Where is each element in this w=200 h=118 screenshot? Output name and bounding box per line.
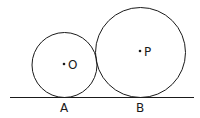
center-dot-p xyxy=(139,50,142,53)
label-o: O xyxy=(68,58,77,72)
label-b: B xyxy=(136,101,144,115)
tangent-circles-diagram: O P A B xyxy=(0,0,200,118)
label-a: A xyxy=(60,101,69,115)
center-dot-o xyxy=(63,63,66,66)
circle-p xyxy=(96,8,186,98)
label-p: P xyxy=(144,45,151,59)
